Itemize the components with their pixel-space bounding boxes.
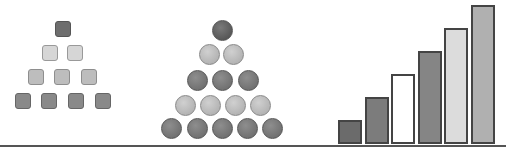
circle-row4-4 [250,95,271,116]
square-row4-1 [15,93,31,109]
square-row4-2 [41,93,57,109]
circle-row4-3 [225,95,246,116]
square-row4-3 [68,93,84,109]
bar-1 [338,120,362,144]
circle-row2-2 [223,44,244,65]
circle-row2-1 [199,44,220,65]
square-row1-1 [55,21,71,37]
circle-row5-3 [212,118,233,139]
bar-2 [365,97,389,144]
square-row2-2 [67,45,83,61]
baseline [0,145,506,147]
square-row4-4 [95,93,111,109]
circle-row3-1 [187,70,208,91]
square-row3-2 [54,69,70,85]
square-row3-3 [81,69,97,85]
figure [0,0,506,151]
bar-4 [418,51,442,144]
circle-row4-1 [175,95,196,116]
circle-row5-2 [187,118,208,139]
square-row2-1 [42,45,58,61]
bar-5 [444,28,468,144]
bar-6 [471,5,495,144]
circle-row3-2 [212,70,233,91]
circle-row5-1 [161,118,182,139]
circle-row4-2 [200,95,221,116]
bar-3 [391,74,415,144]
circle-row1-1 [212,20,233,41]
circle-row5-5 [262,118,283,139]
square-row3-1 [28,69,44,85]
circle-row5-4 [237,118,258,139]
circle-row3-3 [238,70,259,91]
